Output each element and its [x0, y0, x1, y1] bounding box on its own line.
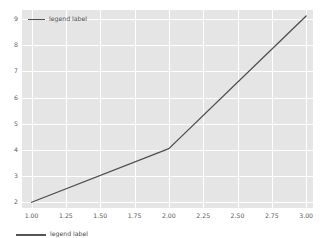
line-series-legend-label	[32, 16, 307, 202]
x-axis-tick-label: 1.75	[122, 213, 148, 219]
chart-figure: legend label 234567891.001.251.501.752.0…	[0, 0, 325, 238]
y-axis-tick-label: 5	[4, 121, 18, 127]
y-axis-tick-label: 3	[4, 173, 18, 179]
legend-line-swatch	[28, 19, 45, 20]
x-axis-tick-label: 2.00	[156, 213, 182, 219]
x-axis-tick-label: 1.50	[87, 213, 113, 219]
x-axis-tick-label: 1.00	[19, 213, 45, 219]
legend: legend label	[26, 14, 91, 24]
figure-legend: legend label	[16, 231, 88, 238]
y-axis-tick-label: 7	[4, 68, 18, 74]
y-axis-tick-label: 6	[4, 95, 18, 101]
plot-area: legend label	[22, 10, 313, 208]
y-axis-tick-label: 9	[4, 16, 18, 22]
y-axis-tick-label: 4	[4, 147, 18, 153]
figure-legend-entry-label: legend label	[50, 231, 88, 237]
figure-legend-line-swatch	[16, 234, 46, 236]
y-axis-tick-label: 2	[4, 199, 18, 205]
x-axis-tick-label: 2.75	[259, 213, 285, 219]
x-axis-tick-label: 2.25	[190, 213, 216, 219]
x-axis-tick-label: 3.00	[293, 213, 319, 219]
legend-entry-label: legend label	[49, 16, 87, 22]
x-axis-tick-label: 2.50	[225, 213, 251, 219]
y-axis-tick-label: 8	[4, 42, 18, 48]
line-series-layer	[22, 10, 313, 208]
x-axis-tick-label: 1.25	[53, 213, 79, 219]
